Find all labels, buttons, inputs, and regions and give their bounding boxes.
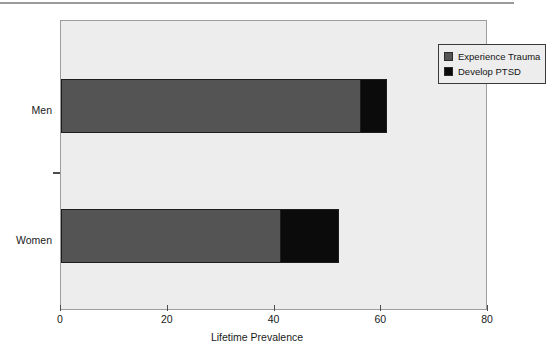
bar-row-women: [61, 209, 339, 263]
legend-entry-develop-ptsd: Develop PTSD: [444, 64, 540, 79]
x-axis-tick-60: [380, 305, 381, 311]
x-axis-tick-label-40: 40: [268, 313, 280, 325]
bar-segment-men-develop-ptsd: [360, 79, 387, 133]
bar-segment-women-develop-ptsd: [280, 209, 339, 263]
plot-area: Experience Trauma Develop PTSD: [60, 20, 487, 310]
x-axis-tick-label-80: 80: [481, 313, 493, 325]
x-axis-tick-80: [487, 305, 488, 311]
bar-segment-women-experience-trauma: [61, 209, 280, 263]
y-axis-label-women: Women: [0, 234, 52, 246]
legend-swatch-experience-trauma: [444, 52, 453, 61]
x-axis-tick-20: [167, 305, 168, 311]
bar-row-men: [61, 79, 387, 133]
legend-swatch-develop-ptsd: [444, 67, 453, 76]
x-axis-tick-label-20: 20: [161, 313, 173, 325]
legend-entry-experience-trauma: Experience Trauma: [444, 49, 540, 64]
legend-label-experience-trauma: Experience Trauma: [458, 51, 540, 62]
chart-legend: Experience Trauma Develop PTSD: [438, 44, 546, 84]
x-axis-tick-40: [274, 305, 275, 311]
y-axis-label-men: Men: [0, 104, 52, 116]
x-axis-title: Lifetime Prevalence: [0, 331, 514, 343]
legend-label-develop-ptsd: Develop PTSD: [458, 66, 521, 77]
x-axis-tick-0: [60, 305, 61, 311]
x-axis-tick-label-0: 0: [57, 313, 63, 325]
bar-segment-men-experience-trauma: [61, 79, 360, 133]
x-axis-tick-label-60: 60: [374, 313, 386, 325]
y-axis-tick-mid: [53, 172, 60, 174]
